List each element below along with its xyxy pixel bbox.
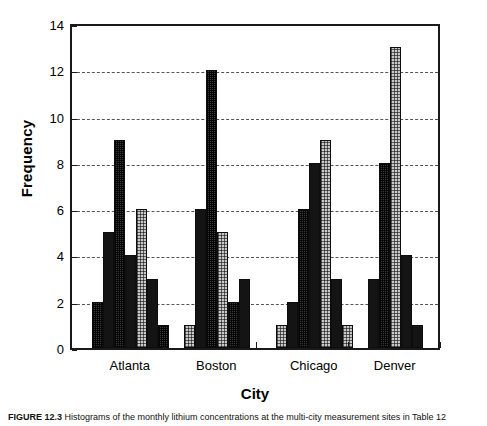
bar bbox=[368, 279, 379, 348]
y-tick-label: 10 bbox=[24, 110, 64, 125]
figure-caption: FIGURE 12.3 Histograms of the monthly li… bbox=[8, 411, 483, 424]
bar bbox=[309, 163, 320, 348]
bar bbox=[114, 140, 125, 348]
x-tick-label-boston: Boston bbox=[196, 358, 236, 373]
bar bbox=[320, 140, 331, 348]
figure-number: FIGURE 12.3 bbox=[8, 412, 62, 422]
y-tick-label: 14 bbox=[24, 18, 64, 33]
bar bbox=[298, 209, 309, 348]
plot-area bbox=[70, 24, 440, 350]
x-tick-mark bbox=[164, 342, 165, 348]
bar bbox=[147, 279, 158, 348]
y-tick-label: 0 bbox=[24, 342, 64, 357]
y-tick-label: 4 bbox=[24, 249, 64, 264]
x-axis-title: City bbox=[70, 385, 440, 402]
x-tick-mark bbox=[348, 342, 349, 348]
bar bbox=[217, 232, 228, 348]
y-tick-mark bbox=[72, 72, 77, 73]
bar bbox=[92, 302, 103, 348]
gridline bbox=[72, 72, 438, 73]
bar bbox=[412, 325, 423, 348]
y-tick-mark bbox=[72, 304, 77, 305]
bar bbox=[379, 163, 390, 348]
bar bbox=[206, 70, 217, 348]
y-tick-mark bbox=[72, 26, 77, 27]
gridline bbox=[72, 119, 438, 120]
bar bbox=[125, 255, 136, 348]
y-tick-mark bbox=[72, 211, 77, 212]
bar bbox=[287, 302, 298, 348]
y-tick-label: 2 bbox=[24, 295, 64, 310]
bar bbox=[390, 47, 401, 348]
x-tick-label-atlanta: Atlanta bbox=[109, 358, 149, 373]
bar bbox=[228, 302, 239, 348]
bar bbox=[401, 255, 412, 348]
bar bbox=[195, 209, 206, 348]
bar bbox=[103, 232, 114, 348]
x-tick-mark bbox=[256, 342, 257, 348]
x-tick-mark bbox=[440, 342, 441, 348]
bar bbox=[276, 325, 287, 348]
figure-container: Frequency City FIGURE 12.3 Histograms of… bbox=[0, 0, 487, 426]
y-tick-mark bbox=[72, 350, 77, 351]
y-tick-mark bbox=[72, 119, 77, 120]
bar bbox=[184, 325, 195, 348]
figure-caption-text: Histograms of the monthly lithium concen… bbox=[65, 412, 447, 422]
bar bbox=[239, 279, 250, 348]
y-tick-label: 8 bbox=[24, 156, 64, 171]
bar bbox=[136, 209, 147, 348]
x-tick-label-chicago: Chicago bbox=[290, 358, 338, 373]
y-tick-mark bbox=[72, 165, 77, 166]
x-tick-label-denver: Denver bbox=[374, 358, 416, 373]
bar bbox=[331, 279, 342, 348]
y-tick-label: 12 bbox=[24, 64, 64, 79]
y-tick-mark bbox=[72, 257, 77, 258]
y-tick-label: 6 bbox=[24, 203, 64, 218]
